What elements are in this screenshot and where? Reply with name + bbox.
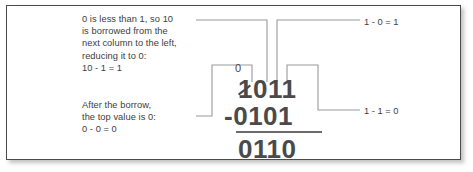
minuend-row: 1011 [222,76,332,103]
subtrahend-row: -0101 [222,103,332,130]
minuend-remaining-digits: 011 [253,74,296,104]
binary-subtraction-figure: 0 is less than 1, so 10 is borrowed from… [0,0,473,172]
annotation-top-right: 1 - 0 = 1 [364,16,398,28]
annotation-bottom-right: 1 - 1 = 0 [364,105,398,117]
borrow-digit: 0 [235,62,241,74]
subtrahend-digits: 0101 [233,101,293,131]
result-row: 0110 [222,133,332,163]
annotation-top-left: 0 is less than 1, so 10 is borrowed from… [82,13,204,74]
annotation-bottom-left: After the borrow, the top value is 0: 0 … [82,99,204,136]
minus-operator: - [224,101,233,131]
struck-digit-wrapper: 1 [238,76,253,103]
subtraction-problem: 0 1011 -0101 0110 [222,62,332,163]
